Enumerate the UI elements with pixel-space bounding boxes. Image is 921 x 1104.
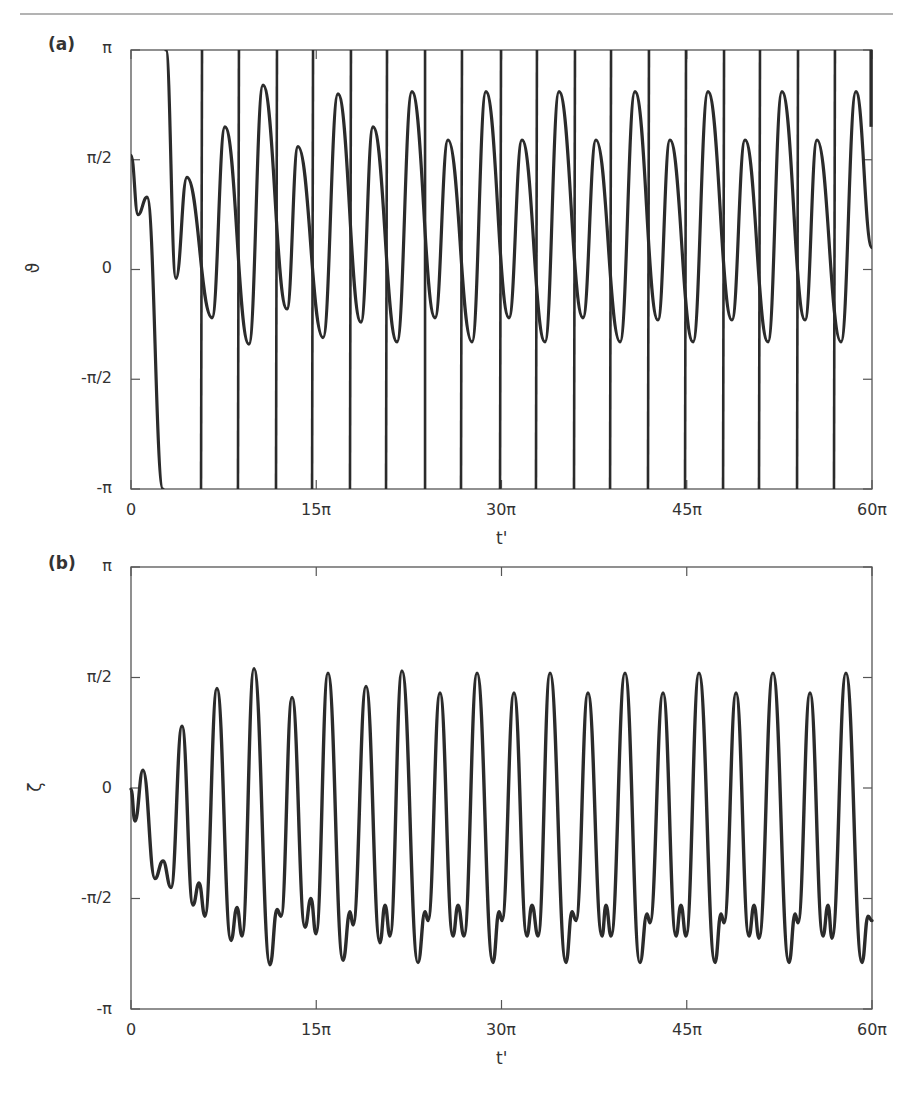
panel-b-xtick-15pi: 15π [286, 1020, 346, 1039]
panel-a-xtick-15pi: 15π [286, 500, 346, 519]
theta-phase-slip [797, 50, 798, 489]
theta-phase-slip [759, 50, 760, 489]
panel-b-ytick-neg-pi-half: -π/2 [52, 888, 112, 907]
theta-phase-slip [350, 50, 351, 489]
plot-canvas [0, 0, 921, 1104]
theta-phase-slip [238, 50, 239, 489]
theta-phase-slip [610, 50, 611, 489]
panel-b-xtick-0: 0 [101, 1020, 161, 1039]
panel-b-frame [131, 567, 872, 1009]
panel-a-xlabel: t' [496, 528, 507, 548]
theta-phase-slip [723, 50, 724, 489]
theta-phase-slip [386, 50, 387, 489]
theta-phase-slip [201, 50, 202, 489]
panel-a-ytick-pi: π [52, 38, 112, 57]
panel-a-ytick-neg-pi: -π [52, 478, 112, 497]
panel-a-xtick-0: 0 [101, 500, 161, 519]
theta-phase-slip [834, 50, 835, 489]
panel-a-ytick-neg-pi-half: -π/2 [52, 368, 112, 387]
panel-b-ytick-neg-pi: -π [52, 999, 112, 1018]
theta-curve [166, 50, 872, 344]
panel-b-ylabel: ζ [25, 782, 45, 791]
figure: (a) π π/2 0 -π/2 -π ϑ 0 15π 30π 45π 60π … [0, 0, 921, 1104]
theta-phase-slip [500, 50, 501, 489]
panel-a-xtick-45pi: 45π [657, 500, 717, 519]
panel-b-xtick-60pi: 60π [842, 1020, 902, 1039]
panel-a-ytick-zero: 0 [52, 258, 112, 277]
zeta-curve [131, 669, 872, 965]
panel-a-xtick-30pi: 30π [471, 500, 531, 519]
panel-b-xtick-30pi: 30π [471, 1020, 531, 1039]
panel-a-ylabel: ϑ [23, 263, 43, 274]
panel-b-xlabel: t' [496, 1048, 507, 1068]
panel-a-xtick-60pi: 60π [842, 500, 902, 519]
theta-phase-slip [461, 50, 462, 489]
theta-phase-slip [685, 50, 686, 489]
panel-b-ytick-pi-half: π/2 [52, 667, 112, 686]
theta-phase-slip [276, 50, 277, 489]
theta-phase-slip [536, 50, 537, 489]
panel-b-xtick-45pi: 45π [657, 1020, 717, 1039]
theta-phase-slip [312, 50, 313, 489]
panel-a-ytick-pi-half: π/2 [52, 148, 112, 167]
theta-phase-slip [574, 50, 575, 489]
panel-b-ytick-pi: π [52, 556, 112, 575]
theta-initial-curve [131, 155, 163, 489]
panel-b-ytick-zero: 0 [52, 778, 112, 797]
theta-phase-slip [648, 50, 649, 489]
